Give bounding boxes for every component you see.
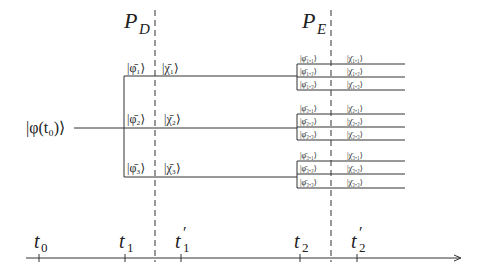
projector-pe-label: P E (301, 8, 326, 37)
second-branch-group-3: |φ̄₃,₁⟩ |χ̄₃,₁⟩ |φ̄₃,₂⟩ |χ̄₃,₂⟩ |φ̄₃,₃⟩ … (297, 151, 405, 188)
phi-3-label: |φ̄₃⟩ (127, 161, 145, 175)
svg-text:′: ′ (183, 224, 187, 241)
svg-text:′: ′ (359, 224, 363, 241)
second-branch-group-1: |φ̄₁,₁⟩ |χ̄₁,₁⟩ |φ̄₁,₂⟩ |χ̄₁,₂⟩ |φ̄₁,₃⟩ … (297, 54, 405, 90)
svg-text:t: t (351, 230, 357, 252)
svg-text:|φ̄₁,₃⟩: |φ̄₁,₃⟩ (300, 80, 317, 89)
svg-text:|χ̄₁,₁⟩: |χ̄₁,₁⟩ (347, 54, 363, 63)
svg-text:|φ̄₂,₃⟩: |φ̄₂,₃⟩ (300, 130, 317, 139)
svg-text:|χ̄₂,₃⟩: |χ̄₂,₃⟩ (347, 130, 363, 139)
svg-text:|φ̄₃,₃⟩: |φ̄₃,₃⟩ (300, 178, 317, 187)
svg-text:|χ̄₂,₂⟩: |χ̄₂,₂⟩ (347, 117, 363, 126)
tick-label-t1-prime: t 1 ′ (175, 224, 190, 255)
chi-3-label: |χ̄₃⟩ (164, 161, 181, 175)
svg-text:1: 1 (183, 240, 190, 255)
svg-text:|χ̄₃,₂⟩: |χ̄₃,₂⟩ (347, 164, 363, 173)
tick-label-t1: t 1 (119, 230, 134, 255)
svg-text:|χ̄₁,₃⟩: |χ̄₁,₃⟩ (347, 80, 363, 89)
phi-2-label: |φ̄₂⟩ (127, 112, 145, 126)
tick-label-t2: t 2 (294, 230, 309, 255)
svg-text:2: 2 (302, 240, 309, 255)
svg-text:|χ̄₃,₃⟩: |χ̄₃,₃⟩ (347, 178, 363, 187)
svg-text:|φ̄₂,₂⟩: |φ̄₂,₂⟩ (300, 117, 317, 126)
tick-label-t0: t 0 (34, 230, 48, 255)
svg-text:|φ̄₁,₁⟩: |φ̄₁,₁⟩ (300, 54, 317, 63)
svg-text:D: D (138, 21, 150, 37)
svg-text:1: 1 (127, 240, 134, 255)
svg-text:t: t (294, 230, 300, 252)
branching-diagram: P D P E |φ(t₀)⟩ |φ̄₁⟩ |χ̄₁⟩ |φ̄₂⟩ |χ̄₂⟩ … (0, 0, 485, 275)
tick-label-t2-prime: t 2 ′ (351, 224, 366, 255)
svg-text:|φ̄₃,₂⟩: |φ̄₃,₂⟩ (300, 164, 317, 173)
projector-pd-label: P D (123, 8, 150, 37)
initial-state-label: |φ(t₀)⟩ (26, 119, 65, 137)
svg-text:|χ̄₃,₁⟩: |χ̄₃,₁⟩ (347, 151, 363, 160)
svg-text:t: t (34, 230, 40, 252)
svg-text:|χ̄₂,₁⟩: |χ̄₂,₁⟩ (347, 104, 363, 113)
svg-text:P: P (301, 8, 315, 33)
svg-text:t: t (175, 230, 181, 252)
svg-text:|χ̄₁,₂⟩: |χ̄₁,₂⟩ (347, 67, 363, 76)
chi-2-label: |χ̄₂⟩ (164, 112, 181, 126)
time-axis (26, 254, 461, 262)
chi-1-label: |χ̄₁⟩ (162, 61, 179, 75)
svg-text:|φ̄₁,₂⟩: |φ̄₁,₂⟩ (300, 67, 317, 76)
svg-text:0: 0 (41, 240, 48, 255)
svg-text:P: P (123, 8, 137, 33)
svg-text:|φ̄₂,₁⟩: |φ̄₂,₁⟩ (300, 104, 317, 113)
svg-text:|φ̄₃,₁⟩: |φ̄₃,₁⟩ (300, 151, 317, 160)
second-branch-group-2: |φ̄₂,₁⟩ |χ̄₂,₁⟩ |φ̄₂,₂⟩ |χ̄₂,₂⟩ |φ̄₂,₃⟩ … (297, 104, 405, 140)
svg-text:t: t (119, 230, 125, 252)
phi-1-label: |φ̄₁⟩ (127, 61, 145, 75)
svg-text:E: E (316, 21, 326, 37)
svg-text:2: 2 (359, 240, 366, 255)
